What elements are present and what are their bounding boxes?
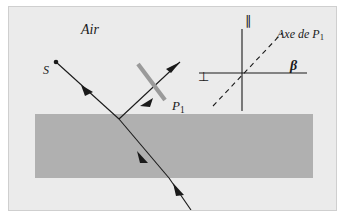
label-polarizer: P1 (172, 99, 185, 115)
optics-figure-panel: Air S P1 ⊥ ∥ Axe de P1 β (8, 6, 337, 211)
label-polarizer-letter: P (172, 98, 180, 113)
perpendicular-symbol-icon: ⊥ (198, 70, 209, 83)
figure-root: Air S P1 ⊥ ∥ Axe de P1 β (0, 0, 345, 219)
exit-ray-arrowhead (173, 183, 184, 196)
label-angle-beta: β (290, 59, 297, 73)
label-axe-subscript: 1 (320, 32, 324, 42)
label-air: Air (81, 23, 99, 37)
source-point-dot (54, 60, 59, 65)
inset-polarizer-axis-dashed (213, 33, 282, 106)
label-polarizer-subscript: 1 (180, 105, 185, 115)
label-axe-text: Axe de P (277, 27, 320, 41)
parallel-symbol-icon: ∥ (245, 14, 252, 27)
polarizer-bar-icon (138, 64, 165, 100)
dielectric-slab (35, 114, 313, 178)
reflected-ray-arrowhead-tip (166, 62, 180, 73)
reflected-ray-arrowhead-mid (140, 98, 153, 107)
label-source: S (43, 64, 49, 76)
label-axe-de-p1: Axe de P1 (277, 28, 324, 42)
